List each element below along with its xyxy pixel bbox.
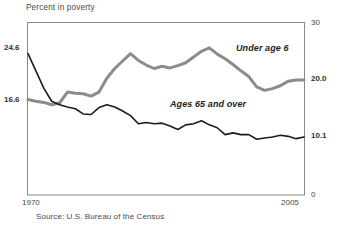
y-axis-right-label-zero: 0: [311, 190, 315, 199]
series-annotation-under-age-6: Under age 6: [236, 43, 289, 53]
y-axis-right-label-top: 30: [311, 18, 320, 27]
y-axis-left-label-upper: 24.6: [4, 43, 20, 52]
y-axis-right-label-10: 10.1: [311, 131, 327, 140]
x-axis-label-start: 1970: [22, 198, 40, 207]
plot-area: [0, 0, 346, 226]
series-line-under-age-6: [28, 48, 304, 105]
x-axis-label-end: 2005: [281, 198, 299, 207]
y-axis-left-label-lower: 16.6: [4, 95, 20, 104]
source-note: Source: U.S. Bureau of the Census: [36, 212, 164, 221]
y-axis-right-label-20: 20.0: [311, 74, 327, 83]
poverty-rate-chart: Percent in poverty 24.6 16.6 30 20.0 10.…: [0, 0, 346, 226]
series-annotation-ages-65-and-over: Ages 65 and over: [170, 99, 246, 109]
